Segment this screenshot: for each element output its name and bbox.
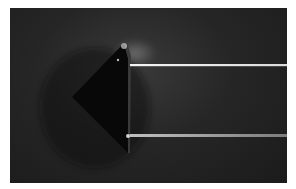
prism-highlight-bottom bbox=[126, 134, 130, 138]
photo bbox=[10, 8, 287, 183]
prism-highlight-top bbox=[121, 43, 127, 49]
beam-bottom bbox=[130, 134, 287, 137]
prism-scene bbox=[10, 8, 287, 183]
prism-highlight-dot bbox=[117, 59, 119, 61]
beam-top bbox=[130, 64, 287, 66]
